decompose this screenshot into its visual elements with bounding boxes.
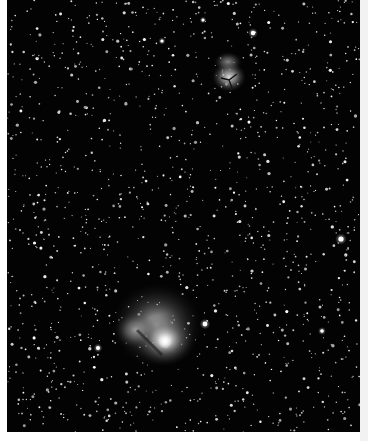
star-field-photo <box>7 0 360 432</box>
sky-canvas <box>7 0 360 432</box>
lower-nebula <box>112 283 202 367</box>
image-border <box>360 0 368 441</box>
